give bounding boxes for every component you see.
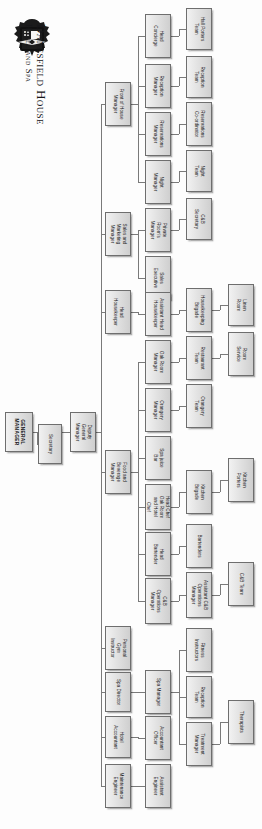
- connector-riser-nightman: [179, 171, 180, 182]
- org-node-dgm[interactable]: DeputyGeneralManager: [70, 412, 96, 452]
- connector-from-restteam: [212, 358, 220, 359]
- org-node-label: KitchenBrigade: [193, 484, 205, 500]
- connector-to-nightman: [138, 182, 145, 183]
- connector-from-orangman: [171, 410, 179, 411]
- connector-to-treatman: [179, 744, 186, 745]
- org-node-label: Assistant C&BOperationsManager: [190, 580, 209, 610]
- org-node-maint[interactable]: MaintenanceEngineer: [105, 764, 131, 808]
- org-node-linenrm[interactable]: LinenRoom: [228, 284, 254, 326]
- org-node-nightteam[interactable]: NightTeam: [186, 150, 212, 192]
- connector-riser-recman: [179, 77, 180, 86]
- connector-to-accoff: [138, 738, 145, 739]
- org-node-treatman[interactable]: TreatmentManager: [186, 722, 212, 766]
- org-node-foh[interactable]: Front of HouseManager: [105, 82, 131, 126]
- connector-riser-spaman: [179, 650, 180, 692]
- org-node-spaman[interactable]: Spa Manager: [145, 670, 171, 714]
- org-node-asseng[interactable]: AssistantEngineer: [145, 764, 171, 808]
- org-node-hhk[interactable]: HeadHousekeeper: [105, 290, 131, 334]
- org-node-label: PersonalGymInstructor: [109, 638, 128, 658]
- org-node-label: LinenRoom: [235, 299, 247, 311]
- org-node-label: Spa juiceBar: [152, 448, 164, 467]
- connector-from-foh: [131, 104, 138, 105]
- org-node-cbteam[interactable]: C&B Team: [228, 562, 254, 606]
- connector-to-recteam: [179, 77, 186, 78]
- org-node-sec[interactable]: Secretary: [38, 424, 62, 464]
- connector-to-spaman: [138, 692, 145, 693]
- connector-riser-asscbops: [220, 584, 221, 595]
- org-node-label: HousekeepingBrigade: [193, 295, 205, 325]
- connector-to-nightteam: [179, 171, 186, 172]
- connector-riser-smm: [138, 234, 139, 278]
- connector-riser-dgm: [101, 312, 102, 432]
- connector-from-headcon: [171, 36, 179, 37]
- org-node-cbsec[interactable]: C&BSecretary: [186, 198, 212, 240]
- org-node-headbar[interactable]: HeadBartender: [145, 532, 171, 576]
- org-node-spadir[interactable]: Spa Director: [105, 672, 131, 712]
- connector-to-bartend: [179, 546, 186, 547]
- org-node-sparec[interactable]: ReceptionTeam: [186, 676, 212, 718]
- org-node-label: Hall PortersTeam: [193, 17, 205, 42]
- org-node-bartend[interactable]: Bartenders: [186, 524, 212, 568]
- connector-to-cbsec: [179, 219, 186, 220]
- org-node-hallport[interactable]: Hall PortersTeam: [186, 8, 212, 50]
- org-node-label: AccountantOfficer: [152, 726, 164, 749]
- org-node-fbm[interactable]: Food andBeverageManager: [105, 450, 131, 494]
- org-node-label: MaintenanceEngineer: [112, 773, 124, 800]
- org-node-rescoord[interactable]: ReservationsCo-ordinator: [186, 102, 212, 146]
- org-node-label: PrivateRoom'sManager: [149, 221, 168, 239]
- org-node-headchef[interactable]: Head ChefOak Roomand HotelChef: [145, 484, 171, 530]
- org-chart-canvas: Danesfield House Hotel and Spa GENERALMA…: [0, 0, 262, 829]
- org-node-oakman[interactable]: Oak RoomManager: [145, 340, 171, 384]
- org-node-label: NightTeam: [193, 165, 205, 176]
- org-node-cbops[interactable]: C&BOperationsManager: [145, 578, 171, 624]
- connector-to-cbops: [138, 601, 145, 602]
- org-node-gm[interactable]: GENERALMANAGER: [5, 412, 33, 452]
- org-node-hotacc[interactable]: HotelAccountant: [105, 716, 131, 758]
- org-node-label: RestaurantTeam: [193, 347, 205, 370]
- org-node-recteam[interactable]: ReceptionTeam: [186, 56, 212, 98]
- org-node-resman[interactable]: ReservationsManager: [145, 112, 171, 156]
- org-node-therap[interactable]: Therapists: [228, 700, 254, 744]
- org-node-pgi[interactable]: PersonalGymInstructor: [105, 626, 131, 670]
- connector-from-kitbrig: [212, 492, 220, 493]
- org-node-asshhk[interactable]: Assistant HeadHousekeeper: [145, 292, 171, 336]
- connector-riser-treatman: [220, 722, 221, 744]
- org-node-kitbrig[interactable]: KitchenBrigade: [186, 470, 212, 514]
- org-node-label: Assistant HeadHousekeeper: [152, 298, 164, 330]
- org-node-orangman[interactable]: OrangeryManager: [145, 388, 171, 432]
- connector-riser-dgm: [101, 432, 102, 786]
- org-node-hkbrig[interactable]: HousekeepingBrigade: [186, 288, 212, 332]
- org-node-asscbops[interactable]: Assistant C&BOperationsManager: [186, 572, 212, 618]
- connector-to-headcon: [138, 36, 145, 37]
- org-node-spajuice[interactable]: Spa juiceBar: [145, 436, 171, 480]
- org-node-orangteam[interactable]: OrangeryTeam: [186, 384, 212, 428]
- org-node-kitport[interactable]: KitchenPorters: [228, 458, 254, 502]
- org-node-restteam[interactable]: RestaurantTeam: [186, 336, 212, 380]
- connector-to-headchef: [138, 507, 145, 508]
- org-node-headcon[interactable]: HeadConcierge: [145, 14, 171, 58]
- org-node-fitinstr[interactable]: FitnessInstructors: [186, 628, 212, 672]
- org-node-label: C&BOperationsManager: [149, 590, 168, 613]
- connector-to-orangman: [138, 410, 145, 411]
- org-node-accoff[interactable]: AccountantOfficer: [145, 716, 171, 760]
- connector-from-asscbops: [212, 595, 220, 596]
- connector-from-oakman: [171, 362, 179, 363]
- org-node-label: GENERALMANAGER: [13, 419, 26, 446]
- org-node-label: FitnessInstructors: [193, 639, 205, 661]
- org-node-recman[interactable]: ReceptionManager: [145, 64, 171, 108]
- org-node-roomserv[interactable]: RoomService: [228, 332, 254, 376]
- org-node-label: HeadHousekeeper: [112, 298, 124, 326]
- connector-riser-headbar: [179, 546, 180, 554]
- org-node-privrm[interactable]: PrivateRoom'sManager: [145, 208, 171, 252]
- connector-riser-fbm: [138, 458, 139, 472]
- org-node-smm[interactable]: Sales andMarketingManager: [105, 212, 131, 256]
- org-node-label: Front of HouseManager: [112, 88, 124, 119]
- org-node-label: ReceptionManager: [152, 75, 164, 96]
- connector-to-asseng: [138, 786, 145, 787]
- connector-from-spadir: [131, 692, 138, 693]
- connector-from-treatman: [212, 744, 220, 745]
- connector-from-headchef: [171, 507, 179, 508]
- org-node-label: SalesExecutive: [152, 268, 164, 288]
- org-node-label: Head ChefOak Roomand HotelChef: [146, 496, 171, 518]
- org-node-nightman[interactable]: NightManager: [145, 160, 171, 204]
